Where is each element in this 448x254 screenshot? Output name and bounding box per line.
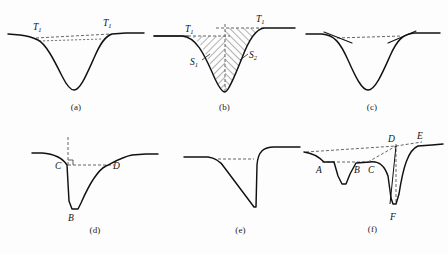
panel-e: (e) <box>178 135 303 223</box>
panel-b-label-T1-left: T1 <box>185 24 194 35</box>
panel-f-cd-line <box>368 146 396 162</box>
panel-b-plot: T1 T1 S1 S2 <box>152 8 297 100</box>
panel-d-label-B: B <box>68 213 74 223</box>
panel-c-plot <box>302 8 442 100</box>
panel-f: A B C D E F (f) <box>300 132 445 224</box>
panel-b-caption: (b) <box>152 102 297 112</box>
panel-a-plot: T1 T1 <box>6 8 146 100</box>
panel-c-chord <box>337 36 402 38</box>
panel-f-upper-baseline <box>306 142 422 152</box>
panel-e-plot <box>178 135 303 223</box>
panel-d-plot: C D B <box>30 135 160 223</box>
panel-c-signal-curve <box>306 33 440 90</box>
panel-a-label-T1-right: T1 <box>103 18 112 29</box>
panel-b-label-T1-right: T1 <box>256 14 265 25</box>
panel-a-chord-secondary <box>39 39 102 41</box>
figure-root: T1 T1 (a) <box>0 0 448 254</box>
panel-a: T1 T1 (a) <box>6 8 146 100</box>
panel-d-right-angle-marker <box>68 160 73 165</box>
panel-d-signal-curve <box>32 153 158 209</box>
panel-f-label-C: C <box>368 165 375 175</box>
panel-d: C D B (d) <box>30 135 160 223</box>
panel-a-caption: (a) <box>6 102 146 112</box>
panel-b-label-S1: S1 <box>190 57 198 68</box>
panel-a-signal-curve <box>8 33 144 90</box>
panel-a-label-T1-left: T1 <box>33 22 42 33</box>
panel-f-label-E: E <box>416 131 423 141</box>
panel-d-label-C: C <box>55 161 62 171</box>
panel-e-signal-curve <box>184 147 300 207</box>
panel-d-label-D: D <box>112 161 120 171</box>
panel-c: (c) <box>302 8 442 100</box>
panel-f-caption: (f) <box>300 224 445 234</box>
panel-f-label-D: D <box>387 134 395 144</box>
panel-f-label-F: F <box>389 212 396 222</box>
panel-b-area-S2-fill <box>222 26 270 96</box>
panel-c-caption: (c) <box>302 102 442 112</box>
panel-f-plot: A B C D E F <box>300 132 445 224</box>
panel-f-label-A: A <box>315 165 322 175</box>
panel-b: T1 T1 S1 S2 (b) <box>152 8 297 100</box>
panel-d-caption: (d) <box>30 225 160 235</box>
panel-e-caption: (e) <box>178 225 303 235</box>
panel-f-label-B: B <box>354 165 360 175</box>
panel-a-chord <box>36 34 111 38</box>
panel-b-label-S2: S2 <box>249 50 258 61</box>
